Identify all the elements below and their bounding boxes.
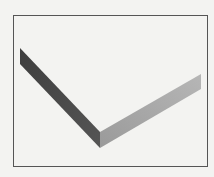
- right-arm-face: [100, 74, 201, 148]
- left-arm-face: [20, 48, 100, 148]
- v-prism-diagram: [0, 0, 214, 177]
- diagram-canvas: [0, 0, 214, 177]
